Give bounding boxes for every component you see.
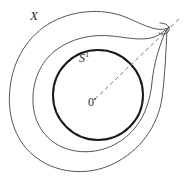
circle-label-s1: S1 [79,52,89,64]
origin-point [94,98,96,100]
dashed-radius-ray [95,17,181,99]
circle-label-exponent: 1 [85,50,89,59]
origin-label: 0 [88,96,94,108]
diagram-canvas [0,0,184,179]
spiral-label-x: X [30,9,38,22]
unit-circle-s1 [53,50,143,140]
figure-diagram: X S1 0 [0,0,184,179]
